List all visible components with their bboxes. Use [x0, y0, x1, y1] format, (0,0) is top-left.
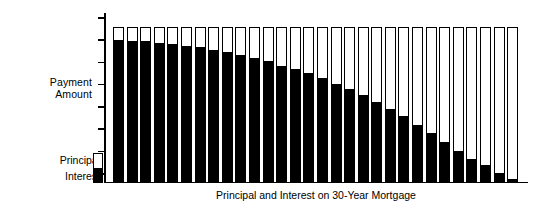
stacked-bar	[494, 27, 505, 182]
y-axis-tick	[98, 173, 105, 175]
legend-swatch-interest	[94, 168, 102, 182]
stacked-bar	[154, 27, 165, 182]
y-axis-tick	[98, 84, 105, 86]
stacked-bar	[439, 27, 450, 182]
stacked-bar	[303, 27, 314, 182]
bar-segment-interest	[481, 165, 490, 180]
bar-segment-interest	[209, 50, 218, 180]
legend-item-principal: Principal	[14, 152, 104, 168]
bar-segment-interest	[359, 95, 368, 181]
bar-segment-interest	[264, 61, 273, 180]
mortgage-stacked-bar-chart: Payment Amount Principal Interest Princi…	[0, 0, 543, 209]
bar-series-group	[113, 27, 518, 182]
bar-segment-interest	[196, 47, 205, 180]
bar-segment-interest	[182, 46, 191, 181]
bar-segment-interest	[454, 151, 463, 180]
bar-segment-interest	[141, 41, 150, 180]
stacked-bar	[344, 27, 355, 182]
stacked-bar	[317, 27, 328, 182]
bar-segment-interest	[495, 173, 504, 181]
stacked-bar	[331, 27, 342, 182]
y-axis-tick	[98, 39, 105, 41]
y-axis-tick	[98, 17, 105, 19]
stacked-bar	[208, 27, 219, 182]
bar-segment-interest	[318, 78, 327, 181]
chart-legend: Principal Interest	[14, 152, 104, 184]
bar-segment-interest	[427, 133, 436, 180]
stacked-bar	[167, 27, 178, 182]
stacked-bar	[235, 27, 246, 182]
stacked-bar	[140, 27, 151, 182]
y-axis-tick	[98, 106, 105, 108]
bar-segment-interest	[413, 125, 422, 180]
stacked-bar	[507, 27, 518, 182]
chart-caption: Principal and Interest on 30-Year Mortga…	[104, 189, 528, 202]
bar-segment-interest	[440, 142, 449, 180]
y-axis-label-line-1: Payment	[20, 76, 92, 88]
stacked-bar	[371, 27, 382, 182]
stacked-bar	[127, 27, 138, 182]
legend-swatch	[93, 153, 103, 183]
stacked-bar	[385, 27, 396, 182]
stacked-bar	[181, 27, 192, 182]
bar-segment-interest	[508, 179, 517, 181]
y-axis-tick	[98, 62, 105, 64]
bar-segment-interest	[277, 66, 286, 181]
y-axis-tick	[98, 128, 105, 130]
stacked-bar	[358, 27, 369, 182]
stacked-bar	[412, 27, 423, 182]
bar-segment-interest	[372, 102, 381, 180]
bar-segment-interest	[114, 40, 123, 181]
stacked-bar	[398, 27, 409, 182]
y-axis-label-line-2: Amount	[20, 88, 92, 100]
bar-segment-interest	[236, 55, 245, 180]
bar-segment-interest	[399, 116, 408, 180]
bar-segment-interest	[291, 69, 300, 181]
stacked-bar	[480, 27, 491, 182]
stacked-bar	[263, 27, 274, 182]
bar-segment-interest	[467, 159, 476, 180]
bar-segment-interest	[345, 89, 354, 181]
stacked-bar	[249, 27, 260, 182]
bar-segment-interest	[304, 73, 313, 180]
stacked-bar	[222, 27, 233, 182]
stacked-bar	[276, 27, 287, 182]
stacked-bar	[466, 27, 477, 182]
bar-segment-interest	[223, 52, 232, 181]
legend-item-interest: Interest	[14, 168, 104, 184]
bar-segment-interest	[155, 43, 164, 181]
stacked-bar	[426, 27, 437, 182]
y-axis-label: Payment Amount	[20, 76, 92, 100]
bar-segment-interest	[386, 109, 395, 181]
bar-segment-interest	[168, 44, 177, 180]
stacked-bar	[195, 27, 206, 182]
bar-segment-interest	[332, 84, 341, 180]
y-axis-tick	[98, 151, 105, 153]
stacked-bar	[113, 27, 124, 182]
stacked-bar	[290, 27, 301, 182]
stacked-bar	[453, 27, 464, 182]
bar-segment-interest	[250, 58, 259, 180]
plot-area	[104, 13, 528, 183]
x-axis-line	[104, 182, 528, 184]
bar-segment-interest	[128, 41, 137, 180]
